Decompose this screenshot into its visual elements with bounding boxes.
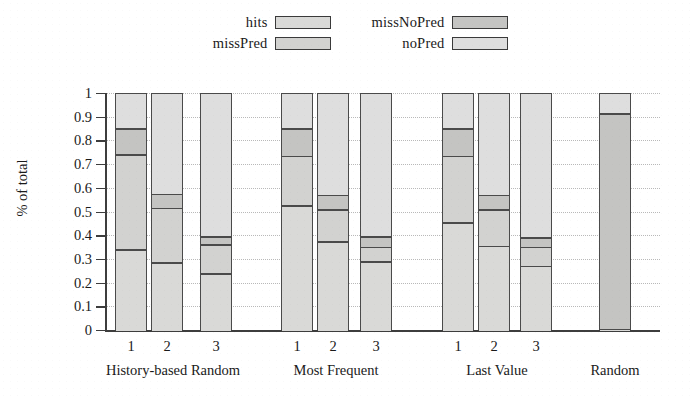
bar-segment-divider — [361, 261, 391, 263]
bar-segment-divider — [479, 209, 509, 211]
y-axis-title: % of total — [14, 159, 31, 216]
bar-segment-divider — [600, 329, 630, 331]
x-axis-bar-label: 2 — [329, 338, 336, 355]
y-axis-tick — [96, 306, 106, 307]
bar-segment-divider — [152, 262, 182, 264]
x-axis-bar-label: 2 — [490, 338, 497, 355]
bar-segment-missNoPred — [282, 128, 312, 155]
bar-segment-divider — [152, 208, 182, 210]
bar-segment-divider — [201, 244, 231, 246]
bar-segment-missPred — [152, 208, 182, 263]
bar-segment-missNoPred — [361, 236, 391, 247]
bar-segment-hits — [152, 262, 182, 331]
y-tick-label: 0.9 — [74, 108, 92, 125]
bar-segment-noPred — [361, 94, 391, 236]
bar-segment-hits — [201, 273, 231, 331]
y-axis-tick — [96, 164, 106, 165]
bar-segment-divider — [479, 246, 509, 248]
y-axis-tick — [96, 188, 106, 189]
x-axis-group-label: History-based Random — [106, 362, 240, 379]
bar-segment-missPred — [361, 247, 391, 261]
bar-segment-divider — [521, 247, 551, 249]
bar-segment-missNoPred — [318, 195, 348, 209]
y-tick-label: 0.4 — [74, 227, 92, 244]
bar-segment-missNoPred — [116, 128, 146, 154]
bar-segment-divider — [600, 113, 630, 115]
y-tick-label: 1 — [85, 85, 92, 102]
y-tick-label: 0.3 — [74, 250, 92, 267]
bar-segment-divider — [152, 194, 182, 196]
bar-segment-divider — [443, 222, 473, 224]
bar-segment-missPred — [479, 209, 509, 246]
bar-segment-divider — [318, 195, 348, 197]
bar-segment-divider — [201, 236, 231, 238]
y-axis-tick — [96, 330, 106, 331]
x-axis-group-label: Last Value — [466, 362, 527, 379]
y-axis-tick — [96, 235, 106, 236]
bar-segment-hits — [521, 266, 551, 331]
bar-segment-noPred — [282, 94, 312, 128]
bar-history-based-random-3 — [200, 93, 232, 330]
bar-segment-divider — [282, 128, 312, 130]
bar-segment-divider — [201, 273, 231, 275]
bar-segment-missNoPred — [600, 113, 630, 329]
x-axis-group-label: Random — [590, 362, 639, 379]
bar-segment-noPred — [152, 94, 182, 194]
bar-segment-missPred — [443, 156, 473, 222]
bar-segment-noPred — [479, 94, 509, 195]
y-axis-tick — [96, 283, 106, 284]
bar-segment-noPred — [521, 94, 551, 237]
bar-segment-noPred — [318, 94, 348, 195]
bar-segment-divider — [521, 237, 551, 239]
bar-segment-divider — [116, 249, 146, 251]
bar-segment-hits — [443, 222, 473, 331]
y-tick-label: 0 — [85, 322, 92, 339]
bar-segment-divider — [443, 128, 473, 130]
bar-last-value-1 — [442, 93, 474, 330]
plot-area: % of total 00.10.20.30.40.50.60.70.80.91… — [0, 0, 691, 402]
x-axis-bar-label: 3 — [532, 338, 539, 355]
y-tick-label: 0.1 — [74, 298, 92, 315]
bar-segment-hits — [361, 261, 391, 331]
y-axis-tick — [96, 259, 106, 260]
bar-segment-missPred — [201, 244, 231, 272]
bar-history-based-random-2 — [151, 93, 183, 330]
y-axis-tick — [96, 212, 106, 213]
bar-most-frequent-2 — [317, 93, 349, 330]
x-axis-bar-label: 1 — [293, 338, 300, 355]
y-tick-label: 0.7 — [74, 156, 92, 173]
bar-segment-noPred — [116, 94, 146, 128]
y-tick-label: 0.6 — [74, 179, 92, 196]
x-axis-bar-label: 1 — [454, 338, 461, 355]
y-tick-label: 0.2 — [74, 274, 92, 291]
bar-last-value-2 — [478, 93, 510, 330]
bar-most-frequent-1 — [281, 93, 313, 330]
bar-segment-noPred — [443, 94, 473, 128]
bar-segment-divider — [318, 209, 348, 211]
bar-segment-divider — [282, 205, 312, 207]
bar-segment-missPred — [282, 156, 312, 206]
bar-segment-divider — [521, 266, 551, 268]
bar-segment-divider — [479, 195, 509, 197]
bar-segment-missNoPred — [479, 195, 509, 209]
bar-random — [599, 93, 631, 330]
bar-segment-missPred — [521, 247, 551, 266]
bar-segment-divider — [116, 154, 146, 156]
bar-most-frequent-3 — [360, 93, 392, 330]
chart-figure: hits missNoPred missPred noPred % of tot… — [0, 0, 691, 402]
y-axis-tick — [96, 93, 106, 94]
y-axis-tick — [96, 140, 106, 141]
y-axis-tick-labels: 00.10.20.30.40.50.60.70.80.91 — [40, 0, 92, 402]
bar-segment-divider — [361, 247, 391, 249]
bar-segment-noPred — [600, 94, 630, 113]
x-axis-group-label: Most Frequent — [294, 362, 379, 379]
bar-last-value-3 — [520, 93, 552, 330]
bar-segment-hits — [116, 249, 146, 331]
bar-segment-missPred — [318, 209, 348, 241]
bar-segment-divider — [318, 241, 348, 243]
bar-segment-missNoPred — [443, 128, 473, 155]
bar-segment-missNoPred — [152, 194, 182, 208]
x-axis-bar-label: 2 — [163, 338, 170, 355]
bar-segment-missPred — [116, 154, 146, 249]
bar-segment-hits — [479, 246, 509, 331]
